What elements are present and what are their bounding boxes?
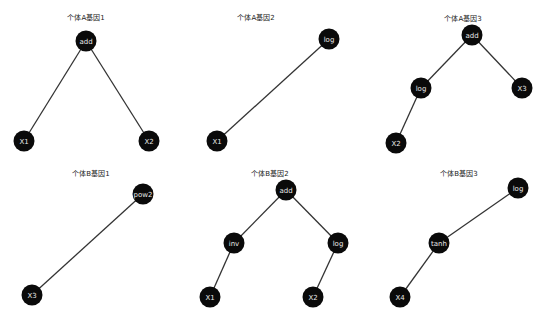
tree-title: 个体B基因3 xyxy=(440,168,477,178)
tree-edge xyxy=(439,188,518,243)
tree-node-add: add xyxy=(76,31,97,52)
tree-node-x1: X1 xyxy=(14,131,35,152)
tree-node-x2: X2 xyxy=(139,131,160,152)
tree-node-tanh: tanh xyxy=(429,233,450,254)
gene-tree-diagram: 个体A基因1addX1X2个体A基因2logX1个体A基因3addlogX3X2… xyxy=(0,0,545,326)
tree-node-x2: X2 xyxy=(386,133,407,154)
tree-node-x4: X4 xyxy=(390,287,411,308)
tree-node-x3: X3 xyxy=(22,285,43,306)
tree-node-pow2: pow2 xyxy=(133,184,154,205)
tree-edges-6 xyxy=(400,188,518,297)
tree-node-inv: inv xyxy=(224,233,245,254)
tree-title: 个体B基因2 xyxy=(251,168,288,178)
tree-node-log: log xyxy=(319,29,340,50)
tree-node-x1: X1 xyxy=(200,287,221,308)
tree-node-x2: X2 xyxy=(303,287,324,308)
tree-edges-4 xyxy=(32,194,143,295)
tree-title: 个体A基因2 xyxy=(237,12,274,22)
tree-node-log: log xyxy=(328,233,349,254)
tree-node-log: log xyxy=(411,78,432,99)
tree-title: 个体B基因1 xyxy=(72,168,109,178)
tree-edge xyxy=(24,41,86,141)
tree-node-add: add xyxy=(276,180,297,201)
tree-title: 个体A基因1 xyxy=(67,12,104,22)
tree-edge xyxy=(32,194,143,295)
tree-edges-1 xyxy=(24,41,149,141)
tree-node-add: add xyxy=(462,25,483,46)
tree-node-x1: X1 xyxy=(207,131,228,152)
tree-edges-2 xyxy=(217,39,329,141)
tree-edge xyxy=(217,39,329,141)
tree-node-log: log xyxy=(508,178,529,199)
tree-edge xyxy=(86,41,149,141)
tree-node-x3: X3 xyxy=(512,78,533,99)
tree-title: 个体A基因3 xyxy=(444,13,481,23)
